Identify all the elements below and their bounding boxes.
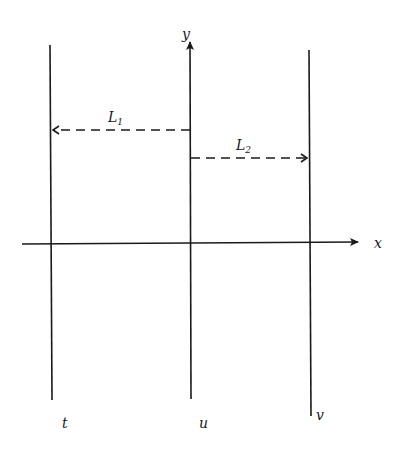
y-axis-label: y bbox=[181, 26, 191, 42]
y-axis-line-u bbox=[190, 42, 191, 399]
line-t bbox=[50, 45, 52, 400]
line-v-label: v bbox=[316, 407, 324, 423]
line-u-label: u bbox=[199, 415, 208, 431]
distance-L1-label: L1 bbox=[107, 109, 123, 127]
x-axis-label: x bbox=[374, 235, 382, 251]
diagram-canvas: x t y u v L1 L2 bbox=[0, 0, 397, 450]
distance-L2-label: L2 bbox=[235, 137, 251, 155]
line-t-label: t bbox=[62, 415, 68, 431]
line-v bbox=[309, 50, 311, 416]
